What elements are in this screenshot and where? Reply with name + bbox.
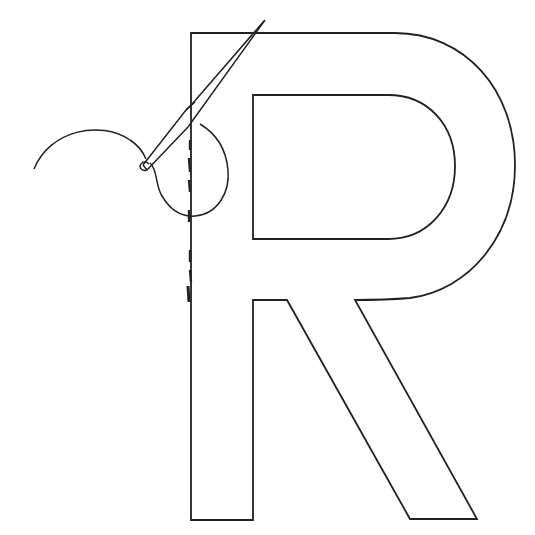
needle-icon [140,20,265,170]
letter-r-needle-drawing [0,0,535,535]
letter-r-outline [191,33,515,520]
thread-icon [34,124,228,216]
letter-r-counter [253,95,455,239]
illustration-canvas: R [0,0,535,535]
